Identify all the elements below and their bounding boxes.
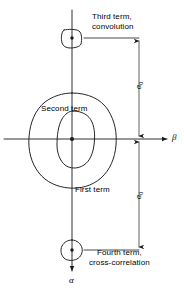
alpha-axis-label: α (69, 275, 74, 285)
figure-root: Third term, convolution Second term Firs… (0, 0, 184, 289)
first-term-label: First term (75, 185, 110, 195)
diagram-canvas (0, 0, 184, 289)
second-term-contour (57, 111, 95, 168)
second-term-label: Second term (41, 104, 87, 114)
alpha-zero-upper-subscript: 0 (138, 82, 144, 85)
fourth-term-center-dot (70, 248, 73, 251)
third-term-center-dot (70, 36, 73, 39)
alpha-zero-upper-symbol: α (134, 85, 143, 89)
alpha-zero-lower-symbol: α (134, 195, 143, 199)
alpha-zero-lower-label: α0 (134, 186, 145, 204)
fourth-term-label: Fourth term, cross-correlation (89, 248, 150, 267)
origin-center-dot (70, 137, 74, 141)
third-term-label: Third term, convolution (92, 12, 134, 31)
alpha-zero-upper-label: α0 (134, 76, 145, 94)
alpha-zero-lower-subscript: 0 (138, 192, 144, 195)
beta-axis-label: β (172, 132, 176, 142)
